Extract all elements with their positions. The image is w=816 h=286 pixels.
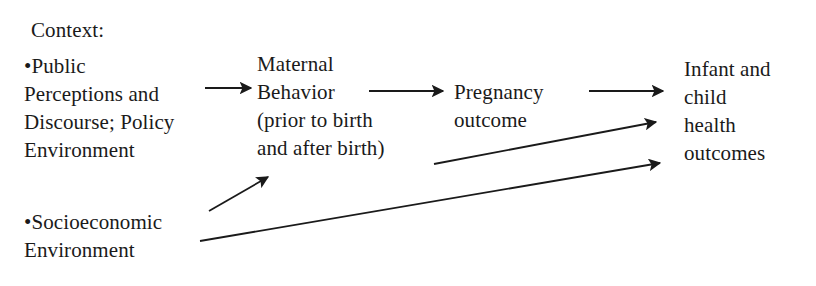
node-public-perceptions: •Public Perceptions and Discourse; Polic… <box>24 52 174 164</box>
diagram-canvas: Context: •Public Perceptions and Discour… <box>0 0 816 286</box>
context-heading: Context: <box>31 16 104 44</box>
arrow-socioeconomic-to-maternal <box>209 177 268 211</box>
node-socioeconomic-environment: •Socioeconomic Environment <box>24 208 162 264</box>
node-maternal-behavior: Maternal Behavior (prior to birth and af… <box>257 50 385 162</box>
arrow-socioeconomic-to-infant <box>200 163 660 241</box>
node-infant-child-health-outcomes: Infant and child health outcomes <box>684 55 771 167</box>
node-pregnancy-outcome: Pregnancy outcome <box>454 78 544 134</box>
